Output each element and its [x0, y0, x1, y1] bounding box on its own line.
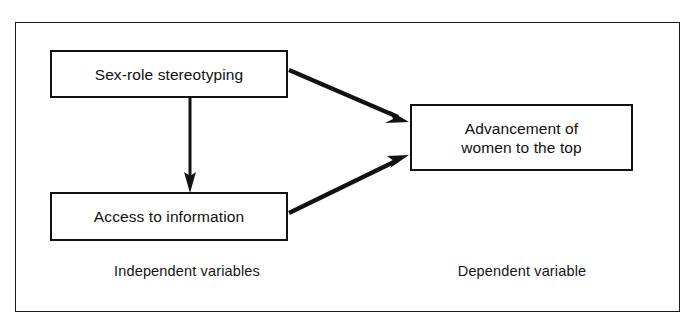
node-label: Sex-role stereotyping — [89, 65, 250, 84]
node-label: Advancement of women to the top — [455, 119, 588, 157]
node-label-line-2: women to the top — [461, 139, 582, 156]
caption-dependent-variable: Dependent variable — [408, 263, 636, 280]
caption-independent-variables: Independent variables — [62, 263, 312, 280]
clipped-caption-remnant — [0, 0, 695, 14]
figure-screenshot: Sex-role stereotyping Access to informat… — [0, 0, 695, 330]
node-label: Access to information — [88, 207, 250, 226]
node-advancement-of-women-to-the-top: Advancement of women to the top — [410, 104, 633, 171]
node-access-to-information: Access to information — [50, 192, 288, 241]
node-sex-role-stereotyping: Sex-role stereotyping — [50, 50, 288, 98]
node-label-line-1: Advancement of — [465, 120, 578, 137]
